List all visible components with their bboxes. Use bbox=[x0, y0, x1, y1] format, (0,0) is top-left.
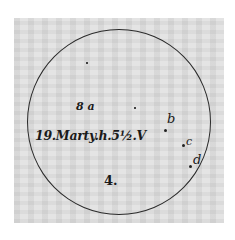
spot-label-b: b bbox=[167, 111, 175, 126]
date-caption: 19.Marty.h.5½.V bbox=[35, 128, 146, 143]
sunspot-b bbox=[164, 129, 167, 132]
solar-disc-outline bbox=[27, 29, 211, 215]
spot-label-a: 8 a bbox=[76, 100, 95, 113]
speck bbox=[134, 107, 136, 109]
spot-label-c: c bbox=[186, 135, 192, 148]
spot-label-4: 4. bbox=[104, 173, 118, 188]
speck bbox=[86, 62, 88, 64]
sunspot-d bbox=[189, 165, 192, 168]
sunspot-c bbox=[182, 144, 185, 147]
spot-label-d: d bbox=[193, 152, 201, 167]
